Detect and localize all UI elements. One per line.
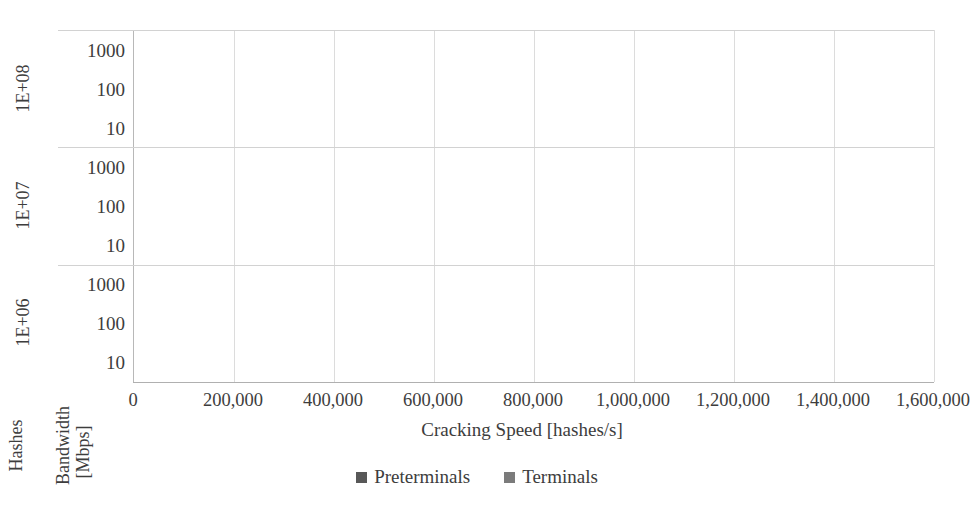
legend-swatch-icon xyxy=(504,472,515,483)
y-axis-tick-label: 1000 xyxy=(65,274,125,296)
bar-row xyxy=(134,323,164,336)
x-axis-tick-label: 1,000,000 xyxy=(596,390,670,411)
bar-row xyxy=(134,206,252,219)
legend-swatch-icon xyxy=(356,472,367,483)
bar-row xyxy=(134,284,178,297)
bar-row xyxy=(134,310,183,323)
plot-area xyxy=(133,30,934,382)
gridline xyxy=(834,30,835,382)
y-axis-tick-label: 10 xyxy=(65,352,125,374)
bar-row xyxy=(134,89,376,102)
x-axis-tick-label: 1,400,000 xyxy=(796,390,870,411)
bar-row xyxy=(134,76,779,89)
y-axis-group-label: 1E+08 xyxy=(13,53,34,123)
y-axis-tick-label: 100 xyxy=(65,79,125,101)
bar-row xyxy=(134,50,784,63)
x-axis-tick-label: 600,000 xyxy=(403,390,463,411)
group-separator xyxy=(58,265,934,266)
group-separator xyxy=(58,147,934,148)
bar-row xyxy=(134,362,151,375)
legend-label: Terminals xyxy=(522,466,598,487)
bar-row xyxy=(134,232,314,245)
bar-row xyxy=(134,349,182,362)
x-axis-title: Cracking Speed [hashes/s] xyxy=(0,419,954,441)
y-axis-tick-label: 100 xyxy=(65,196,125,218)
x-axis-tick-label: 1,200,000 xyxy=(696,390,770,411)
x-axis-tick-label: 0 xyxy=(128,390,137,411)
x-axis-line xyxy=(133,382,934,383)
y-axis-tick-label: 10 xyxy=(65,235,125,257)
legend-item[interactable]: Preterminals xyxy=(356,466,470,488)
legend-item[interactable]: Terminals xyxy=(504,466,598,488)
group-separator xyxy=(58,30,934,31)
x-axis-tick-label: 200,000 xyxy=(203,390,263,411)
y-axis-group-label: 1E+06 xyxy=(13,288,34,358)
legend-label: Preterminals xyxy=(374,466,470,487)
bar-row xyxy=(134,115,478,128)
x-axis-tick-label: 800,000 xyxy=(503,390,563,411)
bar-row xyxy=(134,167,354,180)
y-axis-group-label: 1E+07 xyxy=(13,171,34,241)
y-axis-tick-label: 10 xyxy=(65,118,125,140)
legend: PreterminalsTerminals xyxy=(0,466,954,488)
y-axis-tick-label: 1000 xyxy=(65,157,125,179)
bar-row xyxy=(134,271,184,284)
x-axis-tick-label: 1,600,000 xyxy=(896,390,970,411)
bar-row xyxy=(134,154,384,167)
bar-row xyxy=(134,193,369,206)
y-axis-tick-label: 100 xyxy=(65,313,125,335)
bar-row xyxy=(134,245,159,258)
bar-row xyxy=(134,128,162,141)
gridline xyxy=(934,30,935,382)
bar-row xyxy=(134,37,869,50)
y-axis-tick-label: 1000 xyxy=(65,40,125,62)
x-axis-tick-label: 400,000 xyxy=(303,390,363,411)
